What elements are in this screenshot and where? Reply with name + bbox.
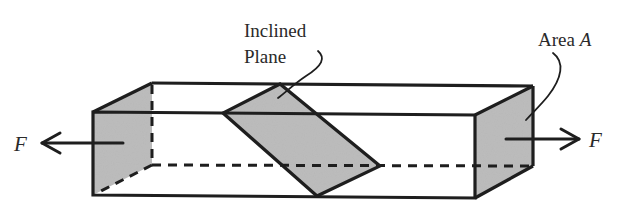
label-plane: Plane bbox=[244, 46, 286, 67]
label-area-prefix: Area bbox=[538, 29, 580, 50]
stress-bar-diagram: Inclined Plane Area A F F bbox=[0, 0, 620, 223]
label-force-left: F bbox=[13, 132, 27, 156]
label-area-symbol: A bbox=[578, 29, 592, 50]
shaded-faces bbox=[93, 83, 533, 198]
label-area: Area A bbox=[538, 29, 592, 50]
label-force-right: F bbox=[588, 128, 602, 152]
top-back-edge bbox=[152, 83, 533, 86]
left-end-face bbox=[93, 83, 152, 195]
label-inclined: Inclined bbox=[244, 20, 307, 41]
